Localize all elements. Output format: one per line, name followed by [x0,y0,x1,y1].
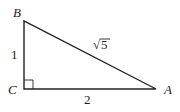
right-angle-marker [24,80,33,89]
triangle-abc [24,21,156,89]
radical-sign: √ [93,37,101,52]
side-label-bc: 1 [11,47,18,62]
radicand: 5 [101,37,108,52]
vertex-label-b: B [13,5,21,20]
vertex-label-c: C [8,82,17,97]
side-label-ca: 2 [84,92,91,107]
triangle-diagram: B C A 1 2 √ 5 [0,0,180,112]
vertex-label-a: A [163,82,172,97]
side-label-ab: √ 5 [93,37,110,52]
